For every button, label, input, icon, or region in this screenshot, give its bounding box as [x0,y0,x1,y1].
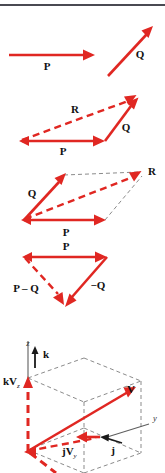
label-q-1: Q [136,48,145,60]
label-p-minus-q: P – Q [13,282,39,294]
box-top-back-right [84,358,141,381]
label-z-axis: z [25,338,30,348]
parallelogram-guide-top [64,172,139,175]
vector-r-dashed-3 [25,171,142,219]
panel-3d-components [23,341,149,473]
vector-figure-page: P Q R P Q Q P R P P – Q −Q z y k j V kVz… [0,0,165,473]
label-q-2: Q [122,121,131,133]
vector-q-arrow-1 [108,26,153,76]
label-p-2: P [60,145,67,157]
y-axis-line [104,424,149,438]
label-p-1: P [44,60,51,72]
vector-p-arrow-4 [25,252,107,263]
label-j-vy: jVy [61,445,78,460]
box-top-back-left [28,358,84,378]
k-unit-vector-arrow [32,346,39,368]
label-k-hat: k [43,348,50,360]
panel-parallelogram-addition [21,171,142,226]
vector-p-arrow-3 [24,215,106,226]
label-r-2: R [71,103,80,115]
label-k-vz: kVz [3,375,20,390]
label-j-hat: j [110,444,115,456]
box-top-front-left [28,378,84,402]
origin-corner-tick [24,446,36,457]
label-y-axis: y [152,413,157,423]
panel-separate-vectors [9,26,153,76]
vector-p-arrow-1 [9,50,95,61]
parallelogram-guide-right [105,176,142,220]
label-v-vector: V [127,383,135,395]
vector-r-dashed-2 [22,95,137,140]
box-bottom-front-right [84,453,141,473]
label-q-3: Q [28,187,37,199]
vector-diagrams-canvas: P Q R P Q Q P R P P – Q −Q z y k j V kVz… [0,0,165,473]
label-neg-q: −Q [91,279,106,291]
label-p-4: P [63,240,70,252]
label-r-3: R [148,165,157,177]
label-p-3: P [63,226,70,238]
k-vz-component-arrow [23,376,33,452]
